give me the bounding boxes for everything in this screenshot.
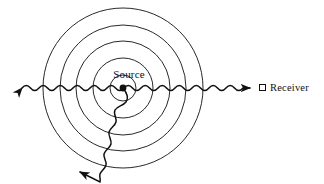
legend: Receiver	[259, 82, 309, 93]
wave-propagation-figure: Source Receiver	[0, 0, 324, 184]
legend-label-receiver: Receiver	[270, 82, 309, 93]
source-label: Source	[99, 68, 159, 80]
source-dot	[120, 85, 127, 92]
receiver-square-icon	[259, 84, 266, 91]
